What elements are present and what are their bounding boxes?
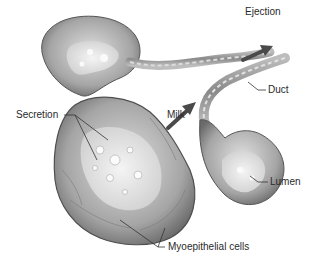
alveolus-illustration [0,0,320,267]
label-ejection: Ejection [245,7,281,17]
label-duct: Duct [268,85,289,95]
label-lumen: Lumen [270,177,301,187]
right-lobule [200,120,284,205]
label-myoepithelial-cells: Myoepithelial cells [168,242,249,252]
label-milk: Milk [167,110,185,120]
label-secretion: Secretion [16,110,58,120]
diagram-canvas: Ejection Duct Secretion Milk Lumen Myoep… [0,0,320,267]
upper-lobule [42,16,140,96]
